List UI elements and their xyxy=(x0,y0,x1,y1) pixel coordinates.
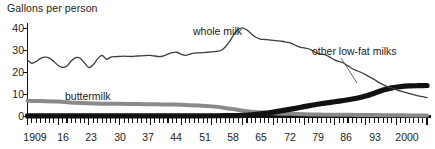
y-axis-tick-label-10: 10 xyxy=(2,88,24,100)
x-axis-tick-label-93: 93 xyxy=(369,131,381,143)
series-line-whole-milk xyxy=(28,28,428,98)
x-axis-tick-label-37: 37 xyxy=(142,131,154,143)
x-axis-tick-label-58: 58 xyxy=(227,131,239,143)
series-label-whole-milk: whole milk xyxy=(193,25,242,37)
x-axis-tick-label-30: 30 xyxy=(114,131,126,143)
series-label-other-low-fat-milks: other low-fat milks xyxy=(312,45,397,57)
series-label-buttermilk: buttermilk xyxy=(65,90,111,102)
y-axis-title: Gallons per person xyxy=(7,2,98,14)
y-axis-tick-label-20: 20 xyxy=(2,66,24,78)
x-axis-tick-label-65: 65 xyxy=(255,131,267,143)
x-axis-tick-label-23: 23 xyxy=(85,131,97,143)
milk-consumption-chart: Gallons per person 40 30 20 10 0 1909 16… xyxy=(0,0,435,149)
x-axis-tick-label-16: 16 xyxy=(57,131,69,143)
x-axis-tick-label-44: 44 xyxy=(170,131,182,143)
x-axis-tick-label-1909: 1909 xyxy=(23,131,46,143)
x-axis-tick-label-51: 51 xyxy=(199,131,211,143)
y-axis-tick-label-40: 40 xyxy=(2,22,24,34)
y-axis-tick-label-0: 0 xyxy=(2,110,24,122)
y-axis-tick-label-30: 30 xyxy=(2,44,24,56)
x-axis-tick-label-79: 79 xyxy=(312,131,324,143)
x-axis-tick-label-72: 72 xyxy=(284,131,296,143)
x-axis-tick-label-2000: 2000 xyxy=(395,131,418,143)
chart-plot-area xyxy=(0,0,435,149)
x-axis-tick-label-86: 86 xyxy=(340,131,352,143)
